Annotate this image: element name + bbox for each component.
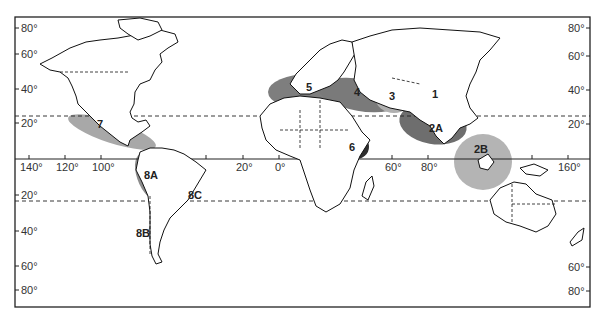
- lon-label-60: 60°: [385, 161, 402, 173]
- zone-label-8a: 8A: [144, 169, 158, 181]
- lon-label-140: 140°: [20, 161, 43, 173]
- zone-label-2a: 2A: [429, 122, 443, 134]
- lon-label-0: 0°: [275, 161, 286, 173]
- lat-label-left-60s: 60°: [21, 260, 38, 272]
- lat-label-right-60n: 60°: [568, 50, 585, 62]
- zone-label-4: 4: [354, 86, 361, 98]
- zone-label-3: 3: [389, 90, 395, 102]
- lat-label-left-60n: 60°: [21, 48, 38, 60]
- zone-label-1: 1: [432, 88, 438, 100]
- zone-label-8b: 8B: [136, 227, 150, 239]
- lon-label-100: 100°: [92, 161, 115, 173]
- lat-label-left-20n: 20°: [21, 117, 38, 129]
- lon-label-80: 80°: [421, 161, 438, 173]
- world-map: 7 8A 8B 8C 5 4 3 1 2A 2B 6 80° 60° 40° 2…: [0, 0, 606, 322]
- lat-label-right-80s: 80°: [568, 285, 585, 297]
- lat-label-left-40s: 40°: [21, 225, 38, 237]
- zone-label-2b: 2B: [474, 143, 488, 155]
- lat-label-left-20s: 20°: [21, 189, 38, 201]
- lat-label-left-40n: 40°: [21, 83, 38, 95]
- lon-label-160: 160°: [558, 161, 581, 173]
- lat-label-right-20n: 20°: [568, 118, 585, 130]
- zone-label-6: 6: [349, 141, 355, 153]
- zone-label-8c: 8C: [188, 189, 202, 201]
- lon-label-120: 120°: [56, 161, 79, 173]
- lon-label-20: 20°: [236, 161, 253, 173]
- lat-label-left-80s: 80°: [21, 284, 38, 296]
- lat-label-right-40n: 40°: [568, 84, 585, 96]
- lat-label-right-60s: 60°: [568, 261, 585, 273]
- lat-label-right-80n: 80°: [568, 22, 585, 34]
- zone-label-5: 5: [306, 81, 312, 93]
- lat-label-left-80n: 80°: [21, 22, 38, 34]
- zone-label-7: 7: [97, 118, 103, 130]
